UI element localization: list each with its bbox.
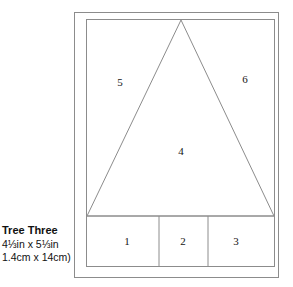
piece-label-2: 2 (180, 236, 186, 247)
pattern-diagram: 1 2 3 4 5 6 Tree Three 4⅓in x 5⅓in 1.4cm… (0, 0, 293, 287)
pattern-size-metric: 1.4cm x 14cm) (2, 251, 76, 264)
piece-label-4: 4 (178, 146, 184, 157)
piece-label-3: 3 (233, 236, 239, 247)
piece-label-1: 1 (124, 236, 130, 247)
pattern-caption: Tree Three 4⅓in x 5⅓in 1.4cm x 14cm) (2, 224, 76, 264)
pattern-title: Tree Three (2, 224, 76, 237)
piece-label-6: 6 (242, 74, 248, 85)
piece-label-5: 5 (117, 77, 123, 88)
inner-block-border (86, 19, 275, 267)
pattern-size-imperial: 4⅓in x 5⅓in (2, 238, 76, 251)
